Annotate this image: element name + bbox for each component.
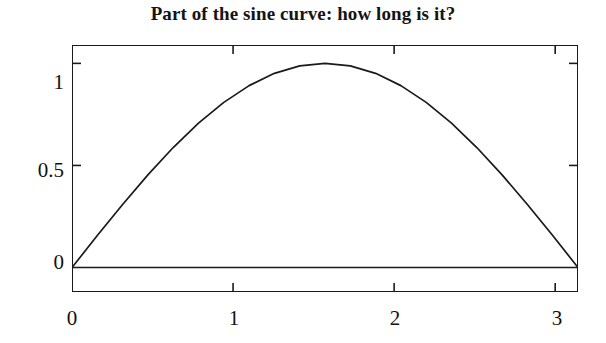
x-tick-label-2: 2 (375, 308, 415, 329)
x-tick-label-1: 1 (214, 308, 254, 329)
x-tick-label-0: 0 (52, 308, 92, 329)
sine-curve-line (72, 63, 578, 267)
tick-marks (72, 45, 578, 292)
chart-page: Part of the sine curve: how long is it? … (0, 0, 606, 343)
plot-canvas (72, 45, 578, 292)
plot-area (72, 45, 578, 292)
x-tick-label-3: 3 (537, 308, 577, 329)
